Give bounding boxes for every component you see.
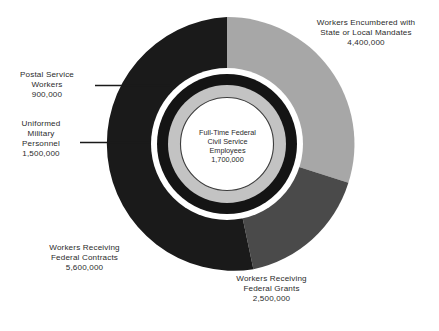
label-workers-receiving-federal-contracts: Workers Receiving Federal Contracts 5,60… xyxy=(22,243,147,273)
donut-diagram-figure: Workers Encumbered with State or Local M… xyxy=(0,0,439,331)
label-uniformed-military-personnel: Uniformed Military Personnel 1,500,000 xyxy=(4,119,78,158)
label-workers-encumbered-state-local-mandates: Workers Encumbered with State or Local M… xyxy=(296,18,436,48)
label-full-time-federal-civil-service-employees: Full-Time Federal Civil Service Employee… xyxy=(181,128,274,164)
label-workers-receiving-federal-grants: Workers Receiving Federal Grants 2,500,0… xyxy=(203,274,340,304)
label-postal-service-workers: Postal Service Workers 900,000 xyxy=(4,70,90,100)
